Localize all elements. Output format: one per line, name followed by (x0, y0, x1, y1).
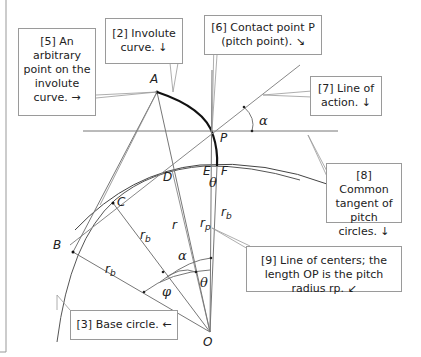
point-label-d: D (163, 170, 172, 184)
base-radius-label-2: rb (140, 228, 151, 244)
callout-involute-curve: [2] Involute curve. ↓ (105, 18, 183, 64)
theta-label-top: θ (209, 175, 217, 190)
point-label-o: O (203, 335, 212, 349)
callout-line-of-centers: [9] Line of centers; the length OP is th… (246, 246, 402, 292)
alpha-label-o: α (178, 248, 187, 263)
point-label-b: B (53, 238, 61, 252)
point-label-f: F (221, 164, 228, 178)
callout-line-of-action: [7] Line of action. ↓ (310, 76, 382, 116)
involute-diagram: A B C D E F P O r rp rb rb rb α α θ θ φ … (0, 0, 421, 357)
point-label-a: A (150, 72, 158, 86)
callout-contact-point: [6] Contact point P (pitch point). ↘ (204, 15, 322, 55)
radius-r-label: r (172, 218, 177, 232)
callout-common-tangent: [8] Common tangent of pitch circles. ↓ (326, 163, 402, 223)
callout-base-circle: [3] Base circle. ← (70, 310, 178, 340)
point-label-p: P (220, 131, 227, 145)
callout-arbitrary-point: [5] An arbitrary point on the involute c… (18, 28, 96, 116)
base-radius-label-3: rb (105, 262, 116, 278)
point-label-c: C (117, 195, 125, 209)
base-radius-label-1: rb (221, 205, 232, 221)
involute-curve (157, 92, 217, 166)
phi-label: φ (162, 284, 171, 299)
pitch-radius-label: rp (200, 216, 211, 232)
alpha-label-p: α (259, 113, 268, 128)
theta-label-o: θ (200, 275, 208, 290)
